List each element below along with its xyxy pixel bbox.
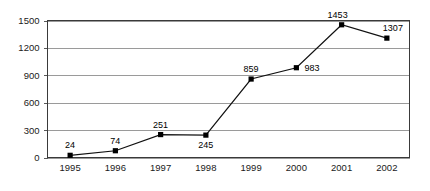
y-axis-label-1500: 1500 bbox=[18, 15, 39, 26]
line-chart: 030060090012001500 247425124585998314531… bbox=[0, 0, 430, 191]
value-label-1995: 24 bbox=[65, 140, 75, 150]
y-axis-label-0: 0 bbox=[34, 152, 39, 163]
value-label-1999: 859 bbox=[244, 64, 259, 74]
value-label-1996: 74 bbox=[110, 136, 120, 146]
x-axis-label-1998: 1998 bbox=[195, 162, 216, 173]
x-axis-label-1996: 1996 bbox=[105, 162, 126, 173]
x-axis-label-2002: 2002 bbox=[376, 162, 397, 173]
x-axis-label-1999: 1999 bbox=[241, 162, 262, 173]
marker-2002 bbox=[384, 36, 389, 41]
y-axis-label-600: 600 bbox=[24, 97, 40, 108]
chart-canvas: 030060090012001500 247425124585998314531… bbox=[0, 0, 430, 191]
y-axis-label-900: 900 bbox=[24, 70, 40, 81]
marker-1999 bbox=[249, 76, 254, 81]
marker-1998 bbox=[203, 133, 208, 138]
x-axis-label-1997: 1997 bbox=[150, 162, 171, 173]
marker-1996 bbox=[113, 148, 118, 153]
marker-2000 bbox=[294, 65, 299, 70]
value-label-1998: 245 bbox=[198, 140, 213, 150]
value-label-2002: 1307 bbox=[383, 23, 403, 33]
x-axis-label-2001: 2001 bbox=[331, 162, 352, 173]
value-label-2000: 983 bbox=[304, 63, 319, 73]
marker-1995 bbox=[68, 153, 73, 158]
value-label-1997: 251 bbox=[153, 120, 168, 130]
y-axis-label-300: 300 bbox=[24, 125, 40, 136]
value-label-2001: 1453 bbox=[328, 10, 348, 20]
x-axis-label-2000: 2000 bbox=[286, 162, 307, 173]
y-axis-label-1200: 1200 bbox=[18, 42, 39, 53]
marker-1997 bbox=[158, 132, 163, 137]
x-axis-label-1995: 1995 bbox=[60, 162, 81, 173]
marker-2001 bbox=[339, 22, 344, 27]
